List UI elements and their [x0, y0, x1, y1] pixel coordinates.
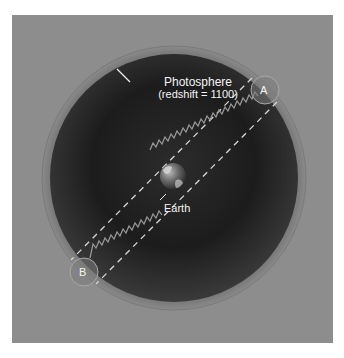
earth-label: Earth: [164, 202, 190, 214]
redshift-value: (redshift = 1100): [138, 88, 258, 100]
point-a-label: A: [260, 84, 267, 96]
cmb-photosphere-diagram: [0, 0, 344, 358]
point-b-label: B: [79, 266, 86, 278]
earth-icon: [160, 163, 186, 189]
photosphere-title: Photosphere: [138, 76, 258, 88]
photosphere-label: Photosphere (redshift = 1100): [138, 76, 258, 100]
